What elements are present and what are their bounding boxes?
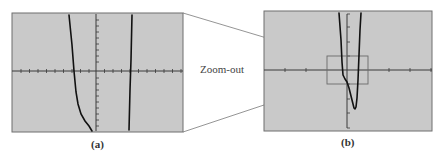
panel-a-screen — [12, 13, 183, 132]
panel-a-caption: (a) — [91, 138, 104, 150]
panel-b-screen — [264, 11, 432, 131]
panel-b-caption: (b) — [341, 136, 354, 148]
zoom-out-figure — [0, 0, 442, 159]
zoom-out-label: Zoom-out — [200, 63, 244, 75]
